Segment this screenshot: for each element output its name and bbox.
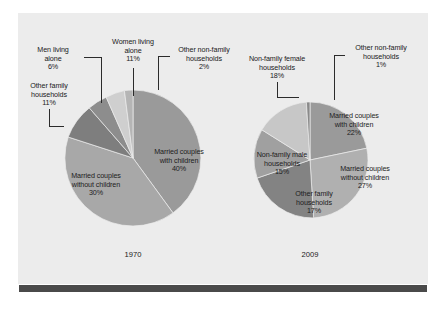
label-line-3: 17% — [278, 207, 350, 216]
bottom-rule — [19, 285, 427, 292]
leader-nonfamily-female-2009-v — [277, 82, 278, 98]
label-line-3: 11% — [101, 55, 165, 64]
label-line-3: 2% — [167, 63, 241, 72]
label-line-3: 22% — [318, 129, 390, 138]
leader-other-nonfamily-2009-v — [334, 55, 335, 100]
label-line-3: 40% — [142, 165, 216, 174]
label-other-nonfamily-1970: Other non-family households 2% — [167, 46, 241, 72]
label-nonfamily-male-2009: Non-family male households 15% — [244, 151, 320, 177]
year-label-2009: 2009 — [290, 250, 330, 259]
label-women-living-alone-1970: Women living alone 11% — [101, 38, 165, 64]
label-men-living-alone-1970: Men living alone 6% — [22, 46, 84, 72]
label-married-with-children-1970: Married couples with children 40% — [142, 148, 216, 174]
label-nonfamily-female-2009: Non-family female households 18% — [237, 55, 317, 81]
label-line-3: 1% — [343, 61, 419, 70]
figure-root: Men living alone 6% Women living alone 1… — [0, 0, 443, 309]
label-line-3: 30% — [59, 189, 133, 198]
label-other-family-2009: Other family households 17% — [278, 190, 350, 216]
leader-other-nonfamily-1970-h — [158, 56, 170, 57]
leader-other-family-1970-h — [49, 126, 64, 127]
leader-other-nonfamily-1970-v — [158, 56, 159, 90]
year-label-1970: 1970 — [113, 250, 153, 259]
label-other-family-1970: Other family households 11% — [14, 82, 84, 108]
label-married-without-children-2009: Married couples without children 27% — [327, 165, 403, 191]
leader-women-living-alone-1970 — [133, 68, 134, 96]
label-married-without-children-1970: Married couples without children 30% — [59, 172, 133, 198]
label-line-3: 18% — [237, 72, 317, 81]
leader-men-living-alone-1970-v — [101, 57, 102, 103]
leader-other-family-1970-v — [49, 109, 50, 126]
label-line-3: 6% — [22, 63, 84, 72]
label-other-nonfamily-2009: Other non-family households 1% — [343, 44, 419, 70]
label-line-3: 15% — [244, 168, 320, 177]
label-married-with-children-2009: Married couples with children 22% — [318, 112, 390, 138]
leader-nonfamily-female-2009-h — [277, 97, 299, 98]
leader-other-nonfamily-2009-h — [334, 55, 345, 56]
leader-men-living-alone-1970 — [84, 57, 102, 58]
label-line-3: 11% — [14, 99, 84, 108]
